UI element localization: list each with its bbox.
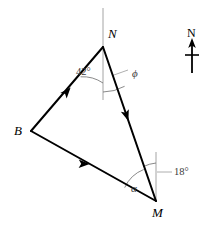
bearing-triangle-figure: N B M 42° ϕ α 18° N	[0, 0, 213, 231]
angle-label-18: 18°	[174, 167, 189, 178]
edge-n-b	[31, 47, 103, 131]
angle-arc-18	[143, 163, 156, 167]
edge-b-m	[31, 131, 156, 201]
angle-leader-phi	[113, 70, 129, 76]
angle-label-42: 42°	[76, 67, 91, 78]
vertex-label-m: M	[152, 206, 163, 219]
vertex-label-n: N	[108, 27, 117, 40]
compass-north-label: N	[187, 27, 196, 39]
edge-m-n	[103, 47, 156, 201]
arrowhead-edge-n-b	[60, 85, 74, 99]
angle-arc-phi	[103, 86, 125, 92]
angle-label-alpha: α	[131, 183, 137, 194]
angle-label-phi: ϕ	[132, 68, 138, 79]
vertex-label-b: B	[14, 124, 22, 137]
figure-canvas	[0, 0, 213, 231]
angle-arc-42	[81, 77, 103, 83]
arrowhead-edge-m-n	[121, 109, 133, 122]
